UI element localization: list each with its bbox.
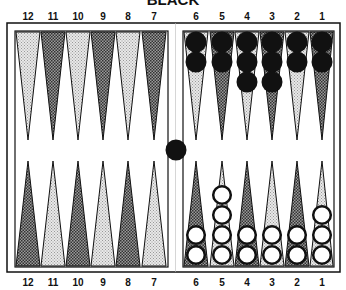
- white-checker[interactable]: [288, 226, 306, 244]
- black-checker[interactable]: [237, 32, 258, 53]
- black-checker[interactable]: [287, 52, 308, 73]
- black-checker[interactable]: [312, 32, 333, 53]
- white-checker[interactable]: [263, 246, 281, 264]
- white-checker[interactable]: [213, 206, 231, 224]
- black-checker[interactable]: [262, 52, 283, 73]
- white-checker[interactable]: [238, 226, 256, 244]
- black-checker[interactable]: [262, 32, 283, 53]
- white-checker[interactable]: [213, 186, 231, 204]
- white-checker[interactable]: [213, 226, 231, 244]
- black-checker[interactable]: [287, 32, 308, 53]
- white-checker[interactable]: [187, 226, 205, 244]
- black-checker[interactable]: [312, 52, 333, 73]
- bar-black-checker[interactable]: [166, 140, 187, 161]
- white-checker[interactable]: [187, 246, 205, 264]
- black-checker[interactable]: [212, 52, 233, 73]
- black-checker[interactable]: [186, 32, 207, 53]
- white-checker[interactable]: [313, 246, 331, 264]
- black-checker[interactable]: [262, 72, 283, 93]
- white-checker[interactable]: [238, 246, 256, 264]
- black-checker[interactable]: [237, 72, 258, 93]
- white-checker[interactable]: [263, 226, 281, 244]
- white-checker[interactable]: [213, 246, 231, 264]
- black-checker[interactable]: [212, 32, 233, 53]
- white-checker[interactable]: [313, 206, 331, 224]
- outer-board: [15, 31, 168, 267]
- white-checker[interactable]: [313, 226, 331, 244]
- home-board: [183, 31, 334, 267]
- black-checker[interactable]: [237, 52, 258, 73]
- black-checker[interactable]: [186, 52, 207, 73]
- white-checker[interactable]: [288, 246, 306, 264]
- backgammon-board: [0, 0, 346, 290]
